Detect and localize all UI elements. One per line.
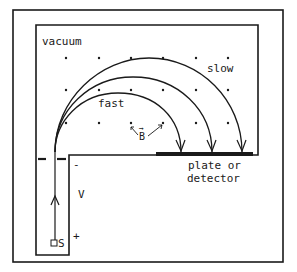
label-field-b: B bbox=[139, 131, 145, 142]
label-fast: fast bbox=[98, 97, 125, 110]
label-source: S bbox=[58, 237, 65, 250]
label-minus: - bbox=[73, 158, 80, 171]
detector-plate bbox=[156, 152, 253, 156]
label-voltage: V bbox=[78, 188, 85, 201]
label-slow: slow bbox=[207, 62, 234, 75]
field-leader-left bbox=[131, 127, 138, 135]
field-dots bbox=[65, 57, 229, 124]
diagram-canvas: vacuum slow fast → B plate or detector -… bbox=[0, 0, 297, 272]
source-box bbox=[51, 240, 57, 246]
field-leader-right bbox=[148, 125, 162, 136]
vacuum-chamber bbox=[36, 25, 258, 255]
label-plate-line1: plate or bbox=[188, 159, 241, 172]
label-plate-line2: detector bbox=[187, 172, 240, 185]
mass-spectrometer-diagram: vacuum slow fast → B plate or detector -… bbox=[0, 0, 297, 272]
label-plus: + bbox=[73, 230, 80, 243]
label-vacuum: vacuum bbox=[42, 35, 82, 48]
trajectory-medium bbox=[55, 77, 212, 152]
